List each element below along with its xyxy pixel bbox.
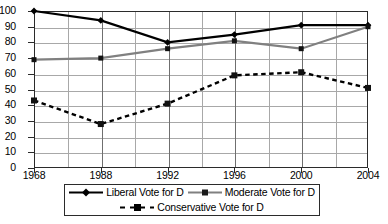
y-axis-label: 70 (0, 52, 16, 62)
x-axis-tick (368, 168, 369, 173)
y-axis-label: 40 (0, 99, 16, 109)
data-point-marker (97, 17, 104, 24)
series-layer (34, 11, 368, 168)
data-point-marker (299, 46, 304, 51)
x-axis-tick (101, 168, 102, 173)
data-point-marker (31, 97, 37, 103)
data-point-marker (32, 57, 37, 62)
series-moderate-vote-for-d (32, 24, 371, 62)
y-axis-label: 10 (0, 146, 16, 156)
data-point-marker (165, 101, 171, 107)
data-point-marker (98, 56, 103, 61)
x-axis-label: 2004 (344, 170, 388, 181)
x-axis-tick (301, 168, 302, 173)
data-point-marker (31, 8, 38, 15)
line-chart: 1009080706050403020100 19681988199219962… (0, 0, 388, 224)
series-liberal-vote-for-d (31, 8, 372, 46)
series-line (34, 27, 368, 60)
x-axis-tick (234, 168, 235, 173)
y-axis-label: 100 (0, 5, 16, 15)
series-line (34, 11, 368, 42)
x-axis-tick (34, 168, 35, 173)
y-axis-label: 20 (0, 131, 16, 141)
y-axis-label: 50 (0, 84, 16, 94)
data-point-marker (298, 69, 304, 75)
legend-swatch-conservative (120, 202, 154, 213)
x-axis-tick (168, 168, 169, 173)
legend-item-liberal[interactable]: Liberal Vote for D (69, 187, 184, 198)
data-point-marker (164, 39, 171, 46)
data-point-marker (98, 121, 104, 127)
legend-swatch-liberal (69, 187, 103, 198)
legend-label-conservative: Conservative Vote for D (157, 202, 263, 213)
data-point-marker (165, 46, 170, 51)
legend-row-1: Liberal Vote for D Moderate Vote for D (65, 185, 319, 200)
y-axis-label: 60 (0, 68, 16, 78)
y-axis-label: 90 (0, 21, 16, 31)
legend-item-conservative[interactable]: Conservative Vote for D (120, 202, 263, 213)
legend-swatch-moderate (188, 187, 222, 198)
series-conservative-vote-for-d (31, 69, 371, 127)
data-point-marker (365, 85, 371, 91)
legend-label-liberal: Liberal Vote for D (106, 187, 184, 198)
data-point-marker (231, 31, 238, 38)
data-point-marker (366, 24, 371, 29)
series-line (34, 72, 368, 124)
data-point-marker (232, 38, 237, 43)
y-axis-label: 80 (0, 36, 16, 46)
legend-row-2: Conservative Vote for D (65, 200, 319, 215)
legend-item-moderate[interactable]: Moderate Vote for D (188, 187, 315, 198)
data-point-marker (298, 22, 305, 29)
chart-legend: Liberal Vote for D Moderate Vote for D C… (64, 184, 320, 216)
data-point-marker (231, 72, 237, 78)
y-axis-label: 30 (0, 115, 16, 125)
legend-label-moderate: Moderate Vote for D (225, 187, 315, 198)
